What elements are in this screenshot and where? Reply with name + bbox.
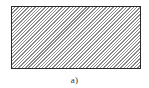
figure-caption: a) xyxy=(0,75,149,85)
hatched-rectangle-figure: a) xyxy=(0,0,149,88)
hatched-rectangle xyxy=(11,6,141,69)
